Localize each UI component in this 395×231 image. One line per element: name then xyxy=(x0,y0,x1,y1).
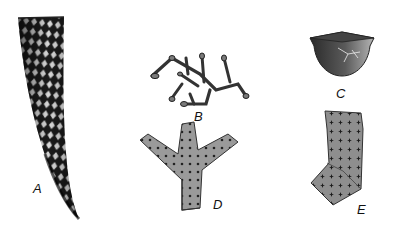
curved-cone-drawing xyxy=(15,14,85,224)
label-c: C xyxy=(336,87,345,100)
specimen-a-curved-cone xyxy=(15,14,85,224)
label-d: D xyxy=(213,198,222,211)
specimen-e-bent-cylinder xyxy=(309,109,367,209)
label-e: E xyxy=(357,203,366,216)
bent-cylinder-drawing xyxy=(309,109,367,209)
branching-colony-drawing xyxy=(150,52,250,112)
fossil-plate-figure: A B xyxy=(0,0,395,231)
specimen-d-y-branch xyxy=(138,120,250,212)
specimen-b-branching-colony xyxy=(150,52,250,112)
specimen-c-cup xyxy=(308,30,376,80)
y-branch-drawing xyxy=(138,120,250,212)
label-a: A xyxy=(33,182,42,195)
cup-drawing xyxy=(308,30,376,80)
